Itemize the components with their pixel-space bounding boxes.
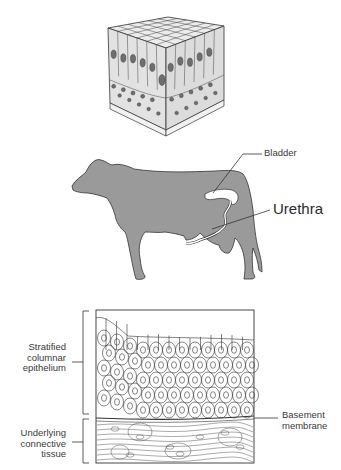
nucleus (128, 98, 132, 102)
nucleus (141, 94, 145, 98)
nucleus (178, 57, 183, 65)
label-line: membrane (282, 421, 327, 432)
nucleus (168, 63, 173, 71)
nucleus (121, 54, 126, 62)
nucleus (208, 83, 212, 87)
nucleus (197, 53, 202, 61)
nucleus (130, 54, 135, 62)
nucleus (179, 94, 183, 98)
label-line: epithelium (0, 363, 66, 374)
nucleus (189, 90, 193, 94)
basement-label: Basement membrane (282, 410, 327, 431)
nucleus (159, 75, 165, 86)
nucleus (137, 103, 141, 107)
nucleus (194, 101, 198, 105)
nucleus (150, 63, 155, 71)
nucleus (175, 111, 179, 115)
nucleus (157, 112, 161, 116)
urethra-label: Urethra (273, 201, 323, 218)
nucleus (204, 96, 208, 100)
nucleus (214, 91, 218, 95)
bladder-label: Bladder (264, 148, 297, 159)
epithelium-cube (0, 0, 341, 470)
nucleus (112, 84, 116, 88)
nucleus (121, 88, 125, 92)
connective-label: Underlying connective tissue (0, 428, 66, 460)
nucleus (140, 59, 145, 67)
nucleus (187, 58, 192, 66)
nucleus (111, 50, 116, 58)
nucleus (170, 97, 174, 101)
epithelium-label: Stratified columnar epithelium (0, 342, 66, 374)
nucleus (118, 94, 122, 98)
nucleus (150, 98, 154, 102)
nucleus (199, 86, 203, 90)
nucleus (147, 107, 151, 111)
nucleus (185, 106, 189, 110)
nucleus (207, 48, 212, 56)
label-line: tissue (0, 449, 66, 460)
nucleus (131, 91, 135, 95)
